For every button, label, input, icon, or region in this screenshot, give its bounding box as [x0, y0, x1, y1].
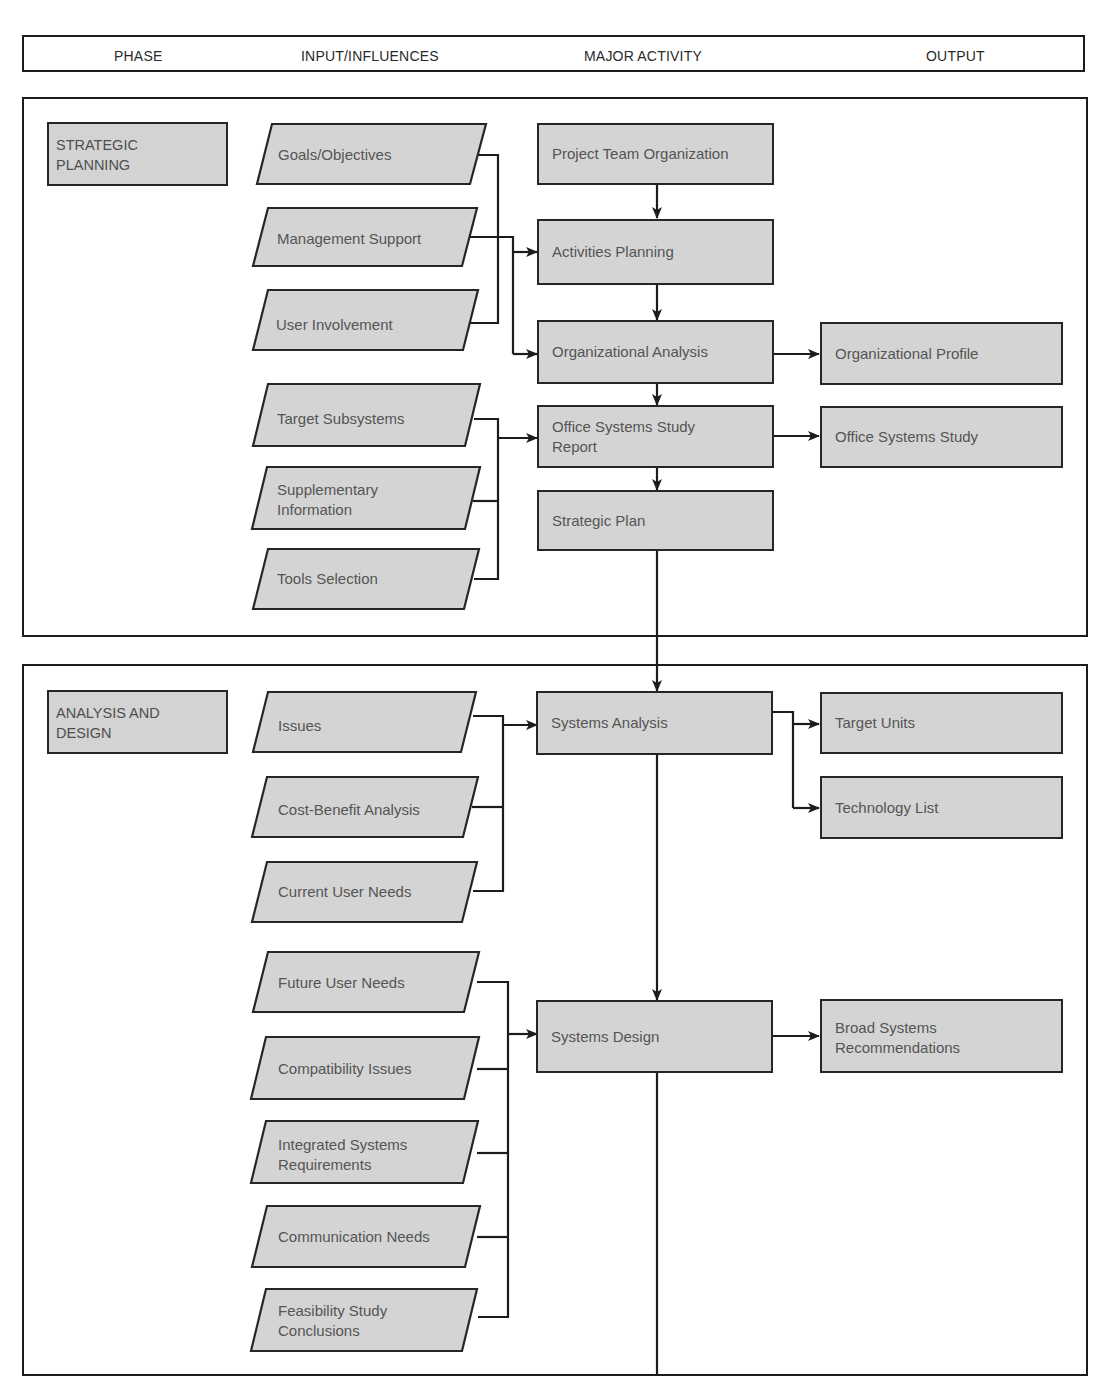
header-major-activity: MAJOR ACTIVITY: [584, 48, 702, 64]
input-label: Integrated Systems Requirements: [278, 1135, 407, 1175]
input-user-involvement: User Involvement: [252, 289, 484, 351]
input-compatibility-issues: Compatibility Issues: [250, 1036, 486, 1100]
activity-label: Project Team Organization: [552, 144, 728, 164]
input-label: Issues: [278, 716, 321, 736]
input-tools-selection: Tools Selection: [252, 548, 484, 610]
input-management-support: Management Support: [252, 207, 484, 267]
header-phase: PHASE: [114, 48, 162, 64]
input-supplementary-information: Supplementary Information: [251, 466, 483, 530]
activity-label: Systems Design: [551, 1027, 659, 1047]
activity-label: Organizational Analysis: [552, 342, 708, 362]
column-header-bar: PHASE INPUT/INFLUENCES MAJOR ACTIVITY OU…: [22, 35, 1085, 72]
input-label: Current User Needs: [278, 882, 411, 902]
activity-strategic-plan: Strategic Plan: [537, 490, 774, 551]
output-office-systems-study: Office Systems Study: [820, 406, 1063, 468]
activity-systems-analysis: Systems Analysis: [536, 691, 773, 755]
output-broad-systems-recommendations: Broad Systems Recommendations: [820, 999, 1063, 1073]
output-label: Target Units: [835, 713, 915, 733]
phase-label: ANALYSIS AND DESIGN: [56, 705, 160, 741]
input-label: Compatibility Issues: [278, 1059, 411, 1079]
input-label: Tools Selection: [277, 569, 378, 589]
activity-label: Office Systems Study Report: [552, 417, 695, 457]
input-label: User Involvement: [276, 315, 393, 335]
output-label: Technology List: [835, 798, 938, 818]
activity-project-team-organization: Project Team Organization: [537, 123, 774, 185]
activity-label: Activities Planning: [552, 242, 674, 262]
input-future-user-needs: Future User Needs: [252, 951, 486, 1013]
input-feasibility-study-conclusions: Feasibility Study Conclusions: [250, 1288, 486, 1352]
input-target-subsystems: Target Subsystems: [252, 383, 484, 447]
input-goals-objectives: Goals/Objectives: [256, 123, 488, 185]
output-label: Broad Systems Recommendations: [835, 1018, 960, 1058]
output-technology-list: Technology List: [820, 776, 1063, 839]
output-label: Organizational Profile: [835, 344, 978, 364]
phase-label: STRATEGIC PLANNING: [56, 137, 138, 173]
activity-organizational-analysis: Organizational Analysis: [537, 320, 774, 384]
input-issues: Issues: [252, 691, 484, 753]
header-input-influences: INPUT/INFLUENCES: [301, 48, 439, 64]
output-target-units: Target Units: [820, 692, 1063, 754]
input-label: Future User Needs: [278, 973, 405, 993]
output-organizational-profile: Organizational Profile: [820, 322, 1063, 385]
output-label: Office Systems Study: [835, 427, 978, 447]
input-label: Supplementary Information: [277, 480, 378, 520]
activity-label: Strategic Plan: [552, 511, 645, 531]
input-label: Management Support: [277, 229, 421, 249]
activity-label: Systems Analysis: [551, 713, 668, 733]
input-label: Target Subsystems: [277, 409, 405, 429]
activity-activities-planning: Activities Planning: [537, 219, 774, 285]
activity-systems-design: Systems Design: [536, 1000, 773, 1073]
header-output: OUTPUT: [926, 48, 985, 64]
input-cost-benefit-analysis: Cost-Benefit Analysis: [251, 776, 485, 838]
phase-analysis-and-design: ANALYSIS AND DESIGN: [47, 690, 228, 754]
input-label: Communication Needs: [278, 1227, 430, 1247]
input-label: Feasibility Study Conclusions: [278, 1301, 387, 1341]
input-current-user-needs: Current User Needs: [251, 861, 485, 923]
input-communication-needs: Communication Needs: [251, 1205, 487, 1268]
phase-strategic-planning: STRATEGIC PLANNING: [47, 122, 228, 186]
input-label: Goals/Objectives: [278, 145, 391, 165]
activity-office-systems-study-report: Office Systems Study Report: [537, 405, 774, 468]
input-integrated-systems-requirements: Integrated Systems Requirements: [250, 1120, 486, 1184]
input-label: Cost-Benefit Analysis: [278, 800, 420, 820]
